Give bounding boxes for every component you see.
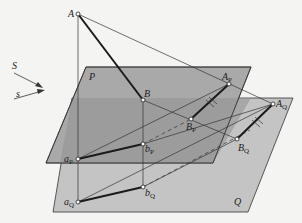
label-B: B: [144, 88, 150, 99]
projection-diagram: S s P Q A B AP BP AQ BQ aP bP aQ bQ: [0, 0, 302, 223]
label-S: S: [12, 60, 17, 71]
label-s: s: [16, 88, 20, 99]
label-A: A: [67, 8, 75, 19]
direction-S-arrow: [14, 73, 43, 88]
label-plane-Q: Q: [234, 196, 242, 207]
label-plane-P: P: [88, 71, 95, 82]
